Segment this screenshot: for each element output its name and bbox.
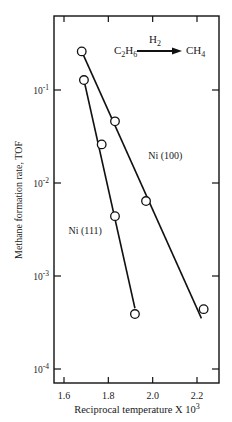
x-tick-label: 1.8	[102, 390, 115, 401]
data-series: Ni (100)Ni (111)	[68, 47, 208, 318]
product-label: CH4	[186, 44, 205, 59]
data-point-circle-icon	[199, 305, 208, 314]
plot-frame-rect	[54, 16, 219, 383]
y-tick-label: 10-1	[33, 83, 49, 96]
x-tick-label: 1.6	[58, 390, 71, 401]
series-label: Ni (111)	[68, 225, 101, 237]
y-tick-label: 10-4	[33, 362, 49, 375]
reaction-arrow-head-icon	[172, 48, 182, 55]
arrhenius-chart: 1.61.82.02.210-110-210-310-4 Ni (100)Ni …	[0, 0, 232, 422]
data-point-circle-icon	[131, 310, 140, 319]
x-axis-label: Reciprocal temperature X 103	[74, 402, 200, 415]
y-tick-label: 10-3	[33, 269, 49, 282]
reactant-label: C2H6	[114, 44, 137, 59]
reaction-annotation: C2H6 H2 CH4	[114, 33, 205, 59]
plot-frame	[54, 16, 219, 383]
fit-line	[82, 51, 202, 318]
chart-svg: 1.61.82.02.210-110-210-310-4 Ni (100)Ni …	[0, 0, 232, 422]
data-point-circle-icon	[97, 140, 106, 149]
y-axis-label: Methane formation rate, TOF	[13, 141, 24, 259]
x-tick-label: 2.0	[146, 390, 159, 401]
data-point-circle-icon	[142, 197, 151, 206]
reagent-label: H2	[149, 33, 161, 48]
axis-ticks: 1.61.82.02.210-110-210-310-4	[33, 16, 219, 401]
x-tick-label: 2.2	[191, 390, 204, 401]
y-tick-label: 10-2	[33, 176, 49, 189]
series-label: Ni (100)	[148, 150, 182, 162]
data-point-circle-icon	[111, 117, 120, 126]
series-ni-111: Ni (111)	[68, 76, 139, 319]
data-point-circle-icon	[111, 212, 120, 221]
data-point-circle-icon	[80, 76, 89, 85]
data-point-circle-icon	[77, 47, 86, 56]
series-ni-100: Ni (100)	[77, 47, 208, 318]
